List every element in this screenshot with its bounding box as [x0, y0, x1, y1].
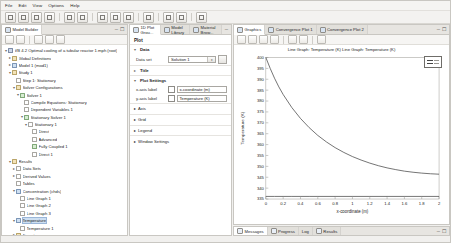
tree-node[interactable]: ▾Solver Configurations	[2, 84, 127, 91]
graphics-minimize-icon[interactable]: ─	[437, 27, 440, 32]
bottom-maximize-icon[interactable]: ☐	[442, 229, 446, 234]
tree-node[interactable]: Direct	[2, 128, 127, 135]
settings-window-controls[interactable]: ─	[222, 25, 231, 34]
y-axis-label-checkbox[interactable]	[168, 95, 175, 102]
go-to-default-view-icon[interactable]	[288, 35, 297, 44]
tree-node[interactable]: Advanced	[2, 136, 127, 143]
section-plot-settings-twisty-icon[interactable]: ▾	[134, 79, 138, 83]
cut-icon[interactable]	[97, 12, 108, 23]
tree-node[interactable]: ▸Model 1 (mod1)	[2, 62, 127, 69]
x-axis-label-checkbox[interactable]	[168, 86, 175, 93]
tab-messages[interactable]: Messages	[234, 227, 268, 235]
plot-icon[interactable]	[176, 12, 187, 23]
previous-node-icon[interactable]	[34, 35, 43, 44]
tree-node[interactable]: ▸Global Definitions	[2, 54, 127, 61]
section-title-twisty-icon[interactable]: ▸	[134, 69, 138, 73]
tab-log[interactable]: Log	[299, 227, 313, 235]
tree-node[interactable]: Dependent Variables 1	[2, 106, 127, 113]
tab-graphics[interactable]: Graphics	[234, 25, 265, 35]
help-icon[interactable]	[196, 12, 207, 23]
next-node-icon[interactable]	[45, 35, 54, 44]
zoom-extents-icon[interactable]	[259, 35, 268, 44]
data-set-go-button[interactable]	[218, 55, 227, 64]
copy-icon[interactable]	[110, 12, 121, 23]
model-tree[interactable]: ▾VB 4.2 Optimal cooling of a tubular rea…	[2, 45, 127, 235]
tree-node[interactable]: ▾VB 4.2 Optimal cooling of a tubular rea…	[2, 47, 127, 54]
tree-node[interactable]: Compile Equations: Stationary	[2, 99, 127, 106]
menu-item-view[interactable]: View	[32, 3, 42, 8]
menu-item-help[interactable]: Help	[70, 3, 79, 8]
tree-node[interactable]: Direct 1	[2, 150, 127, 157]
y-axis-label-input[interactable]: Temperature (K)	[177, 95, 228, 102]
new-file-icon[interactable]	[5, 12, 16, 23]
line-chart[interactable]: 4003953903853803753703653603553503453403…	[234, 45, 449, 224]
zoom-out-icon[interactable]	[248, 35, 257, 44]
graphics-maximize-icon[interactable]: ☐	[442, 27, 446, 32]
minimize-icon[interactable]: ─	[115, 27, 118, 32]
image-snapshot-icon[interactable]	[317, 35, 326, 44]
section-data-twisty-icon[interactable]: ▾	[134, 48, 138, 52]
section-plot-settings[interactable]: ▾ Plot Settings	[130, 75, 231, 85]
zoom-box-icon[interactable]	[270, 35, 279, 44]
tree-node[interactable]: Tables	[2, 180, 127, 187]
tree-node[interactable]: ▾Concentration (chds)	[2, 187, 127, 194]
section-window-settings-twisty-icon[interactable]: ▸	[134, 139, 136, 144]
section-grid-twisty-icon[interactable]: ▸	[134, 117, 136, 122]
zoom-in-icon[interactable]	[237, 35, 246, 44]
tab-material-browser[interactable]: Material Brow...	[190, 25, 222, 34]
tree-node[interactable]: Line Graph 2	[2, 202, 127, 209]
tree-node[interactable]: ▾Stationary 1	[2, 121, 127, 128]
tree-node[interactable]: ▸Export	[2, 232, 127, 235]
data-set-select[interactable]: Solution 1 ▾	[168, 56, 216, 63]
tree-node[interactable]: Line Graph 3	[2, 210, 127, 217]
open-file-icon[interactable]	[18, 12, 29, 23]
tree-node[interactable]: ▾Results	[2, 158, 127, 165]
maximize-icon[interactable]: ☐	[120, 27, 124, 32]
bottom-window-controls[interactable]: ─ ☐	[434, 227, 449, 235]
paste-icon[interactable]	[123, 12, 134, 23]
settings-minimize-icon[interactable]: ─	[225, 27, 228, 32]
delete-icon[interactable]	[143, 12, 154, 23]
undo-icon[interactable]	[64, 12, 75, 23]
plot-canvas[interactable]: Line Graph: Temperature (K) Line Graph: …	[234, 45, 449, 224]
section-axis[interactable]: ▸ Axis	[130, 103, 231, 114]
section-legend-twisty-icon[interactable]: ▸	[134, 128, 136, 133]
tree-node[interactable]: Line Graph 1	[2, 195, 127, 202]
tree-node[interactable]: Fully Coupled 1	[2, 143, 127, 150]
tab-convergence-plot-1[interactable]: Convergence Plot 1	[265, 25, 316, 34]
tab-results[interactable]: Results	[313, 227, 341, 235]
tab-model-library[interactable]: Model Library	[161, 25, 190, 34]
tree-node[interactable]: ▾Solver 1	[2, 91, 127, 98]
tab-model-builder[interactable]: Model Builder	[2, 25, 42, 35]
section-title[interactable]: ▸ Title	[130, 65, 231, 75]
tree-node[interactable]: Temperature 1	[2, 224, 127, 231]
expand-all-icon[interactable]	[16, 35, 25, 44]
print-icon[interactable]	[44, 12, 55, 23]
tab-progress[interactable]: Progress	[268, 227, 299, 235]
section-legend[interactable]: ▸ Legend	[130, 125, 231, 136]
show-hide-icon[interactable]	[56, 35, 65, 44]
x-axis-label-input[interactable]: x-coordinate (m)	[177, 86, 228, 93]
bottom-minimize-icon[interactable]: ─	[437, 229, 440, 234]
collapse-all-icon[interactable]	[5, 35, 14, 44]
compute-icon[interactable]	[163, 12, 174, 23]
menu-item-options[interactable]: Options	[48, 3, 64, 8]
tree-node[interactable]: ▾Study 1	[2, 69, 127, 76]
redo-icon[interactable]	[77, 12, 88, 23]
tree-node[interactable]: ▾Stationary Solver 1	[2, 114, 127, 121]
tree-node[interactable]: Step 1: Stationary	[2, 77, 127, 84]
tree-node[interactable]: ▾Temperature	[2, 217, 127, 224]
menu-item-edit[interactable]: Edit	[18, 3, 26, 8]
graphics-window-controls[interactable]: ─ ☐	[434, 25, 449, 34]
tab-1d-plot-group[interactable]: 1D Plot Grou...	[130, 25, 161, 35]
tree-node[interactable]: ▸Data Sets	[2, 165, 127, 172]
section-window-settings[interactable]: ▸ Window Settings	[130, 135, 231, 146]
model-builder-window-controls[interactable]: ─ ☐	[112, 25, 127, 34]
menu-item-file[interactable]: File	[5, 3, 12, 8]
tree-node[interactable]: ▸Derived Values	[2, 173, 127, 180]
section-axis-twisty-icon[interactable]: ▸	[134, 106, 136, 111]
section-grid[interactable]: ▸ Grid	[130, 114, 231, 125]
section-data[interactable]: ▾ Data	[130, 44, 231, 54]
transparency-icon[interactable]	[299, 35, 308, 44]
tab-convergence-plot-2[interactable]: Convergence Plot 2	[317, 25, 368, 34]
